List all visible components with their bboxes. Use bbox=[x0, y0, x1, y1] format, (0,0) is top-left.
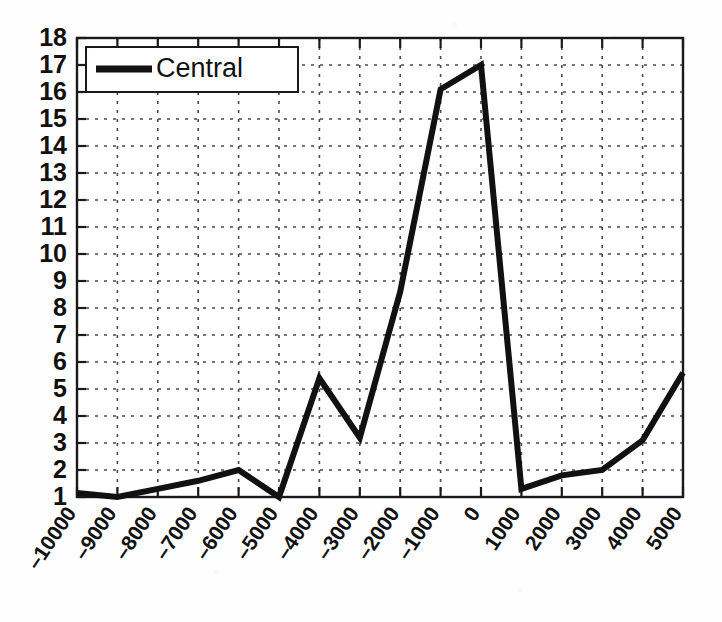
x-axis-tick-label: 1000 bbox=[480, 502, 525, 554]
y-axis-tick-label: 6 bbox=[53, 347, 67, 375]
x-axis-tick-label: –10000 bbox=[22, 502, 80, 573]
x-axis-tick-label: –1000 bbox=[392, 502, 444, 563]
x-axis-tick-label: 2000 bbox=[520, 502, 565, 554]
y-axis-tick-label: 14 bbox=[39, 131, 67, 159]
y-axis-tick-label: 9 bbox=[53, 266, 67, 294]
x-axis-tick-label: –5000 bbox=[231, 502, 283, 563]
y-axis-tick-label: 17 bbox=[39, 50, 67, 78]
x-axis-tick-label: –6000 bbox=[190, 502, 242, 563]
x-axis-tick-label: –3000 bbox=[311, 502, 363, 563]
chart-figure: 123456789101112131415161718 –10000–9000–… bbox=[0, 0, 722, 622]
plot-background bbox=[77, 38, 683, 497]
y-axis-tick-label: 4 bbox=[53, 401, 67, 429]
y-axis-tick-label: 11 bbox=[41, 212, 68, 240]
y-axis-tick-label: 5 bbox=[53, 374, 67, 402]
x-axis-tick-label: 0 bbox=[459, 502, 485, 525]
x-axis-tick-labels: –10000–9000–8000–7000–6000–5000–4000–300… bbox=[22, 502, 686, 573]
y-axis-tick-label: 3 bbox=[53, 428, 67, 456]
y-axis-tick-label: 12 bbox=[39, 185, 67, 213]
x-axis-tick-label: 3000 bbox=[560, 502, 605, 554]
y-axis-tick-label: 13 bbox=[39, 158, 67, 186]
y-axis-tick-label: 7 bbox=[53, 320, 67, 348]
y-axis-tick-label: 10 bbox=[39, 239, 67, 267]
y-axis-tick-labels: 123456789101112131415161718 bbox=[39, 23, 67, 510]
y-axis-tick-label: 2 bbox=[53, 455, 67, 483]
x-axis-tick-label: –9000 bbox=[69, 502, 121, 563]
y-axis-tick-label: 16 bbox=[39, 77, 67, 105]
y-axis-tick-label: 15 bbox=[39, 104, 67, 132]
x-axis-tick-label: 4000 bbox=[601, 502, 646, 554]
legend-label-central: Central bbox=[156, 53, 243, 83]
legend[interactable]: Central bbox=[86, 47, 298, 92]
x-axis-tick-label: –8000 bbox=[109, 502, 161, 563]
y-axis-tick-label: 8 bbox=[53, 293, 67, 321]
x-axis-tick-label: –4000 bbox=[271, 502, 323, 563]
line-chart: 123456789101112131415161718 –10000–9000–… bbox=[0, 0, 722, 622]
y-axis-tick-label: 18 bbox=[39, 23, 67, 51]
x-axis-tick-label: –2000 bbox=[352, 502, 404, 563]
x-axis-tick-label: –7000 bbox=[150, 502, 202, 563]
x-axis-tick-label: 5000 bbox=[641, 502, 686, 554]
